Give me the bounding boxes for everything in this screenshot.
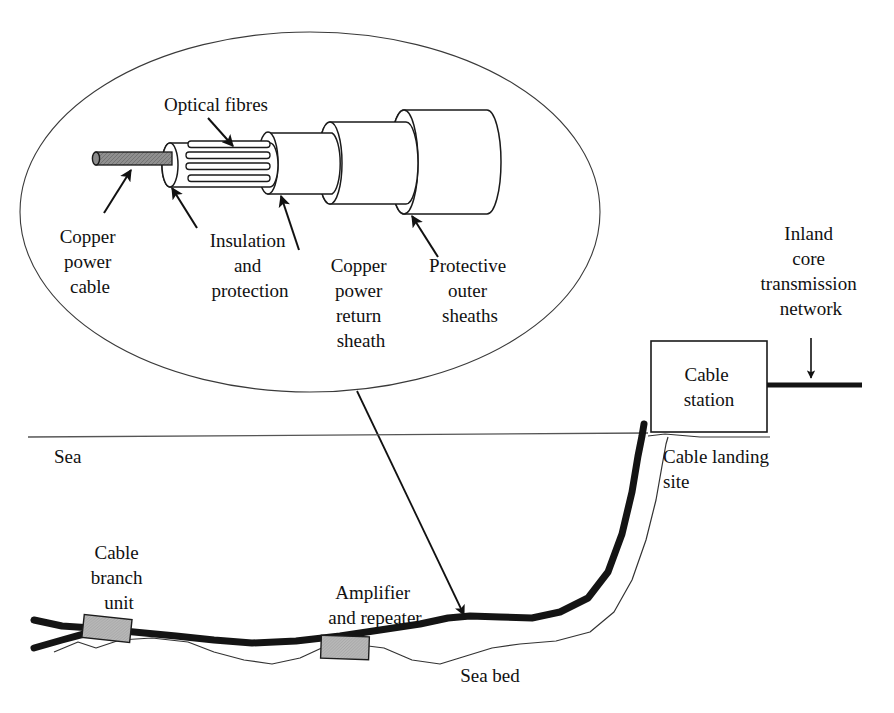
label-insulation-and-protection-line-2: and — [234, 255, 262, 276]
label-amplifier-and-repeater: Amplifier and repeater — [328, 582, 422, 628]
label-cable-branch-unit: Cable branch unit — [91, 542, 147, 613]
label-sea: Sea — [54, 446, 82, 467]
label-cable-landing-site-line-1: Cable landing — [663, 446, 770, 467]
label-insulation-and-protection-line-3: protection — [211, 280, 289, 301]
cable-branch-unit-device — [82, 615, 132, 643]
sea-surface-line — [28, 433, 648, 437]
label-copper-power-cable-line-2: power — [64, 251, 112, 272]
label-protective-outer-sheaths-line-3: sheaths — [442, 305, 498, 326]
shore-ground-line — [648, 434, 770, 437]
label-cable-branch-unit-line-2: branch — [91, 567, 143, 588]
label-inland-core-transmission-network-line-2: core — [792, 248, 825, 269]
label-sea-bed: Sea bed — [460, 665, 520, 686]
label-inland-core-transmission-network: Inland core transmission network — [761, 223, 862, 319]
label-optical-fibres: Optical fibres — [164, 94, 268, 115]
insulation-and-protection-arrow — [172, 188, 197, 228]
label-inland-core-transmission-network-line-3: transmission — [761, 273, 858, 294]
label-cable-branch-unit-line-1: Cable — [94, 542, 138, 563]
label-cable-landing-site-line-2: site — [663, 471, 689, 492]
label-protective-outer-sheaths-line-1: Protective — [429, 255, 506, 276]
label-copper-power-return-sheath-line-3: return — [336, 305, 382, 326]
label-inland-core-transmission-network-line-1: Inland — [784, 223, 833, 244]
label-insulation-and-protection-line-1: Insulation — [210, 230, 286, 251]
cable-station-box — [651, 341, 767, 432]
label-inland-core-transmission-network-line-4: network — [780, 298, 843, 319]
label-copper-power-cable-line-1: Copper — [60, 226, 117, 247]
label-insulation-and-protection: Insulation and protection — [210, 230, 291, 301]
label-cable-station-line-1: Cable — [684, 364, 728, 385]
callout-ellipse — [20, 32, 600, 392]
label-protective-outer-sheaths: Protective outer sheaths — [429, 255, 511, 326]
label-cable-landing-site: Cable landing site — [663, 446, 774, 492]
protective-outer-sheaths-arrow — [412, 216, 438, 257]
label-amplifier-and-repeater-line-1: Amplifier — [335, 582, 411, 603]
diagram-canvas: Optical fibres Copper power cable Insula… — [0, 0, 894, 713]
copper-power-cable-core — [92, 152, 172, 165]
submarine-cable-diagram: Optical fibres Copper power cable Insula… — [0, 0, 894, 713]
label-copper-power-return-sheath-line-4: sheath — [337, 330, 386, 351]
label-cable-station-line-2: station — [684, 389, 735, 410]
label-copper-power-return-sheath-line-2: power — [335, 280, 383, 301]
label-amplifier-and-repeater-line-2: and repeater — [328, 607, 422, 628]
label-copper-power-cable: Copper power cable — [60, 226, 121, 297]
label-copper-power-cable-line-3: cable — [70, 276, 110, 297]
cable-branch-stub — [34, 634, 84, 648]
copper-power-cable-arrow — [104, 170, 131, 213]
cable-cutaway-illustration — [92, 110, 501, 257]
amplifier-and-repeater-device — [321, 635, 370, 660]
label-copper-power-return-sheath-line-1: Copper — [331, 255, 388, 276]
label-copper-power-return-sheath: Copper power return sheath — [331, 255, 392, 351]
label-protective-outer-sheaths-line-2: outer — [448, 280, 488, 301]
label-cable-branch-unit-line-3: unit — [104, 592, 134, 613]
